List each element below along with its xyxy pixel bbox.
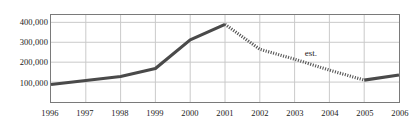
line-chart: 100,000200,000300,000400,000 est. 199619… bbox=[0, 0, 417, 137]
y-axis-tick-label: 100,000 bbox=[2, 79, 48, 88]
data-series-layer bbox=[51, 15, 399, 102]
x-axis-tick-label: 1996 bbox=[30, 108, 70, 118]
x-axis: 1996199719981999200020012002200320042005… bbox=[50, 108, 400, 128]
x-axis-tick-label: 2001 bbox=[205, 108, 245, 118]
x-axis-tick-label: 2006 bbox=[380, 108, 417, 118]
x-axis-tick-label: 2003 bbox=[275, 108, 315, 118]
y-axis-tick-label: 200,000 bbox=[2, 58, 48, 67]
y-axis-tick-label: 400,000 bbox=[2, 18, 48, 27]
x-axis-tick-label: 1998 bbox=[100, 108, 140, 118]
x-axis-tick-label: 2005 bbox=[345, 108, 385, 118]
estimate-annotation: est. bbox=[304, 49, 318, 58]
x-axis-tick-label: 2002 bbox=[240, 108, 280, 118]
x-axis-tick-label: 1997 bbox=[65, 108, 105, 118]
x-axis-tick-label: 2004 bbox=[310, 108, 350, 118]
x-axis-tick-label: 1999 bbox=[135, 108, 175, 118]
y-axis-tick-label: 300,000 bbox=[2, 38, 48, 47]
plot-area bbox=[50, 14, 400, 103]
x-axis-tick-label: 2000 bbox=[170, 108, 210, 118]
